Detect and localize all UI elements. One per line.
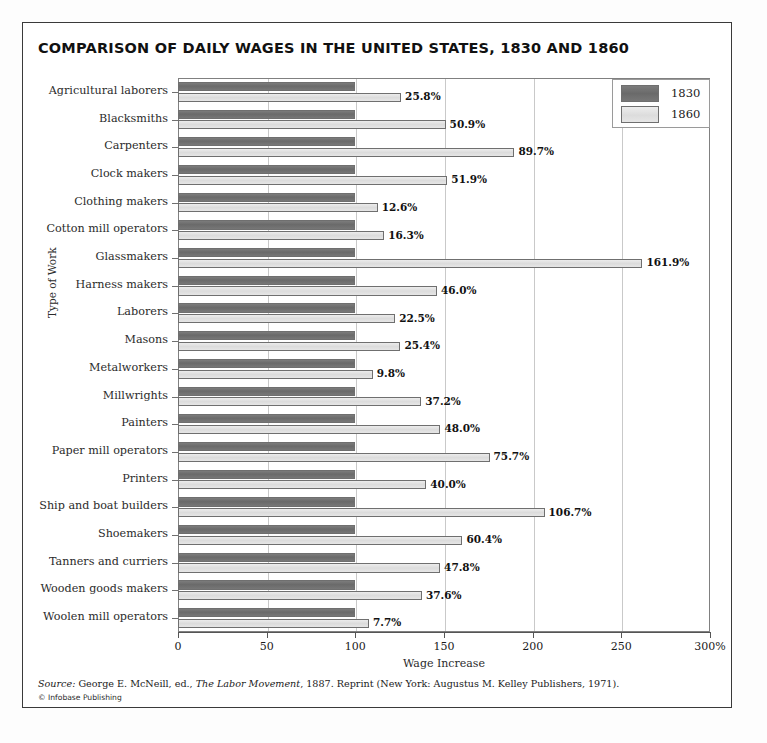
x-axis-tick-label: 50: [260, 640, 274, 653]
bar-1830[interactable]: [178, 165, 355, 174]
y-axis-tick: [172, 507, 178, 508]
bar-value-label: 75.7%: [494, 450, 530, 462]
y-axis-tick: [172, 258, 178, 259]
bar-1830[interactable]: [178, 387, 355, 396]
legend-item[interactable]: 1860: [621, 106, 707, 123]
bar-1860[interactable]: [178, 231, 384, 240]
x-axis-tick-label: 300%: [694, 640, 725, 653]
bar-group: 22.5%: [178, 300, 710, 328]
category-label: Woolen mill operators: [34, 610, 168, 623]
bar-1860[interactable]: [178, 453, 490, 462]
bar-1830[interactable]: [178, 220, 355, 229]
x-axis-tick: [444, 632, 445, 638]
bar-value-label: 47.8%: [444, 561, 480, 573]
bar-1830[interactable]: [178, 497, 355, 506]
bar-value-label: 89.7%: [518, 145, 554, 157]
bar-1860[interactable]: [178, 536, 462, 545]
bar-value-label: 25.8%: [405, 90, 441, 102]
x-axis-tick: [355, 632, 356, 638]
bar-1830[interactable]: [178, 525, 355, 534]
y-axis-tick: [172, 203, 178, 204]
bar-1860[interactable]: [178, 314, 395, 323]
chart-page: COMPARISON OF DAILY WAGES IN THE UNITED …: [0, 0, 767, 743]
bar-1830[interactable]: [178, 193, 355, 202]
legend-item[interactable]: 1830: [621, 85, 707, 102]
bar-1830[interactable]: [178, 276, 355, 285]
bar-series-container: 25.8%50.9%89.7%51.9%12.6%16.3%161.9%46.0…: [178, 78, 710, 632]
bar-1830[interactable]: [178, 331, 355, 340]
y-axis-tick: [172, 590, 178, 591]
x-axis-tick: [533, 632, 534, 638]
bar-group: 106.7%: [178, 494, 710, 522]
bar-1860[interactable]: [178, 480, 426, 489]
source-text-before: George E. McNeill, ed.,: [75, 678, 195, 689]
bar-1860[interactable]: [178, 93, 401, 102]
bar-1860[interactable]: [178, 286, 437, 295]
bar-1830[interactable]: [178, 442, 355, 451]
y-axis-tick: [172, 313, 178, 314]
bar-1860[interactable]: [178, 508, 545, 517]
bar-1830[interactable]: [178, 414, 355, 423]
bar-1860[interactable]: [178, 591, 422, 600]
bar-1860[interactable]: [178, 148, 514, 157]
bar-group: 37.6%: [178, 577, 710, 605]
bar-1860[interactable]: [178, 563, 440, 572]
bar-value-label: 9.8%: [377, 367, 405, 379]
bar-1830[interactable]: [178, 359, 355, 368]
legend-swatch-1860: [621, 106, 659, 123]
legend: 18301860: [612, 79, 710, 128]
bar-value-label: 22.5%: [399, 312, 435, 324]
bar-1860[interactable]: [178, 619, 369, 628]
bar-value-label: 60.4%: [466, 533, 502, 545]
y-axis-tick: [172, 424, 178, 425]
bar-1860[interactable]: [178, 342, 400, 351]
x-axis-tick: [710, 632, 711, 638]
y-axis-title: Type of Work: [46, 247, 58, 318]
bar-group: 16.3%: [178, 217, 710, 245]
bar-1830[interactable]: [178, 470, 355, 479]
bar-group: 75.7%: [178, 438, 710, 466]
bar-value-label: 46.0%: [441, 284, 477, 296]
bar-1860[interactable]: [178, 176, 447, 185]
bar-1860[interactable]: [178, 120, 446, 129]
copyright-note: © Infobase Publishing: [38, 693, 122, 702]
legend-label: 1830: [671, 86, 700, 100]
bar-1830[interactable]: [178, 82, 355, 91]
y-axis-tick: [172, 618, 178, 619]
bar-1860[interactable]: [178, 425, 440, 434]
bar-1860[interactable]: [178, 259, 642, 268]
bar-group: 7.7%: [178, 604, 710, 632]
bar-group: 51.9%: [178, 161, 710, 189]
y-axis-tick: [172, 286, 178, 287]
bar-group: 25.4%: [178, 327, 710, 355]
bar-1860[interactable]: [178, 370, 373, 379]
y-axis-tick: [172, 480, 178, 481]
x-axis-tick: [178, 632, 179, 638]
bar-value-label: 12.6%: [382, 201, 418, 213]
x-axis-tick-label: 100: [345, 640, 366, 653]
bar-1830[interactable]: [178, 303, 355, 312]
bar-value-label: 16.3%: [388, 229, 424, 241]
y-axis-tick: [172, 92, 178, 93]
x-axis-tick-label: 0: [175, 640, 182, 653]
bar-1830[interactable]: [178, 110, 355, 119]
bar-1830[interactable]: [178, 580, 355, 589]
y-axis-tick: [172, 369, 178, 370]
source-note: Source: George E. McNeill, ed., The Labo…: [38, 678, 619, 689]
bar-1830[interactable]: [178, 137, 355, 146]
bar-1830[interactable]: [178, 608, 355, 617]
bar-value-label: 37.6%: [426, 589, 462, 601]
bar-1860[interactable]: [178, 397, 421, 406]
bar-1860[interactable]: [178, 203, 378, 212]
y-axis-tick: [172, 147, 178, 148]
bar-value-label: 106.7%: [549, 506, 592, 518]
page-title: COMPARISON OF DAILY WAGES IN THE UNITED …: [38, 40, 629, 56]
y-axis-tick: [172, 175, 178, 176]
x-axis-tick-label: 150: [434, 640, 455, 653]
bar-value-label: 50.9%: [450, 118, 486, 130]
bar-value-label: 7.7%: [373, 616, 401, 628]
x-axis-tick: [621, 632, 622, 638]
bar-group: 37.2%: [178, 383, 710, 411]
bar-1830[interactable]: [178, 248, 355, 257]
bar-1830[interactable]: [178, 553, 355, 562]
